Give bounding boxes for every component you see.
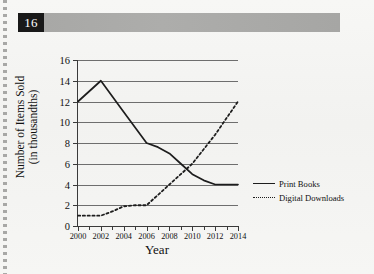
y-axis-title-line1: Number of Items Sold xyxy=(14,64,27,190)
scanned-page: 16 Number of Items Sold (in thousandths)… xyxy=(0,0,374,274)
question-number-badge: 16 xyxy=(18,13,44,32)
y-axis-tick-label: 4 xyxy=(65,179,70,190)
y-axis-tick-label: 14 xyxy=(60,75,71,86)
plot-area: 0246810121416 20002002200420062008201020… xyxy=(77,60,238,227)
legend-swatch-dotted-icon xyxy=(253,194,275,202)
y-axis-tick-label: 12 xyxy=(60,96,71,107)
chart-legend: Print Books Digital Downloads xyxy=(253,177,344,205)
x-axis-tick xyxy=(89,226,90,230)
x-axis-tick-label: 2002 xyxy=(93,232,110,241)
legend-label-digital-downloads: Digital Downloads xyxy=(279,193,344,203)
x-axis-tick xyxy=(124,226,125,231)
x-axis-tick-label: 2004 xyxy=(115,232,132,241)
x-axis-tick xyxy=(101,226,102,231)
x-axis-tick-label: 2008 xyxy=(161,232,178,241)
x-axis-tick xyxy=(169,226,170,231)
series-line-print-books xyxy=(78,81,238,185)
x-axis-tick xyxy=(238,226,239,231)
question-header: 16 xyxy=(18,13,340,32)
legend-label-print-books: Print Books xyxy=(279,179,320,189)
x-axis-tick-label: 2012 xyxy=(207,232,224,241)
y-axis-tick-label: 16 xyxy=(60,55,71,66)
y-axis-title-line2: (in thousandths) xyxy=(27,64,40,190)
x-axis-tick xyxy=(78,226,79,231)
x-axis-tick xyxy=(227,226,228,230)
x-axis-tick xyxy=(181,226,182,230)
legend-swatch-solid-icon xyxy=(253,180,275,188)
x-axis-tick xyxy=(147,226,148,231)
x-axis-tick-label: 2000 xyxy=(70,232,87,241)
x-axis-tick xyxy=(215,226,216,231)
x-axis-tick xyxy=(135,226,136,230)
x-axis-tick-label: 2014 xyxy=(230,232,247,241)
x-axis-tick xyxy=(204,226,205,230)
y-axis-tick-label: 6 xyxy=(65,158,70,169)
y-axis-tick-label: 2 xyxy=(65,200,70,211)
y-axis-tick-label: 0 xyxy=(65,221,70,232)
y-axis-title: Number of Items Sold (in thousandths) xyxy=(14,64,40,190)
x-axis-title: Year xyxy=(77,242,237,258)
x-axis-tick-label: 2010 xyxy=(184,232,201,241)
header-banner xyxy=(44,13,340,32)
series-line-digital-downloads xyxy=(78,102,238,216)
legend-item-print-books: Print Books xyxy=(253,177,344,191)
legend-item-digital-downloads: Digital Downloads xyxy=(253,191,344,205)
y-axis-tick-label: 8 xyxy=(65,138,70,149)
y-axis-tick-label: 10 xyxy=(60,117,71,128)
x-axis-tick xyxy=(158,226,159,230)
x-axis-tick-label: 2006 xyxy=(138,232,155,241)
x-axis-tick xyxy=(112,226,113,230)
x-axis-tick xyxy=(192,226,193,231)
line-chart-figure: Number of Items Sold (in thousandths) 02… xyxy=(0,44,374,274)
data-series-layer xyxy=(78,60,238,226)
